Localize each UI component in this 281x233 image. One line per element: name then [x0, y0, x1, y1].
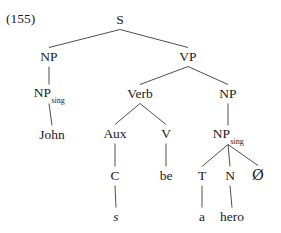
tree-terminal-hero: hero — [220, 210, 244, 224]
tree-terminal-be: be — [160, 169, 173, 183]
tree-edge-verb-to-aux — [115, 104, 140, 125]
tree-edge-vp-to-verb — [140, 67, 188, 85]
tree-edge-s-to-vp — [120, 30, 188, 48]
tree-node-null-empty-determiner: Ø — [252, 168, 264, 183]
tree-branch-lines — [0, 0, 281, 233]
tree-edge-np_sing_obj-to-n — [228, 145, 230, 167]
tree-edge-c-to-s_morpheme — [115, 186, 116, 208]
tree-terminal-john: John — [39, 128, 65, 142]
tree-edge-np_sing_obj-to-t — [202, 145, 228, 167]
tree-node-n: N — [225, 169, 235, 183]
tree-node-np-sing-subject: NPsing — [34, 86, 65, 103]
tree-terminal-s-morpheme: s — [113, 210, 118, 224]
tree-node-v: V — [161, 127, 171, 141]
tree-node-np-subject: NP — [40, 50, 57, 64]
tree-edge-vp-to-np_obj — [188, 67, 228, 85]
tree-terminal-a: a — [199, 210, 205, 224]
tree-node-c: C — [110, 169, 119, 183]
tree-node-np-object: NP — [219, 87, 236, 101]
tree-edge-verb-to-v — [140, 104, 166, 125]
example-number: (155) — [6, 11, 35, 27]
tree-edge-np_sing_obj-to-null — [228, 145, 258, 166]
syntax-tree-figure: (155) S NP VP NPsing Verb NP Aux V NPsin… — [0, 0, 281, 233]
tree-node-np-sing-object: NPsing — [213, 127, 244, 144]
tree-node-aux: Aux — [103, 127, 126, 141]
tree-node-subscript: sing — [51, 95, 64, 104]
tree-node-vp: VP — [179, 50, 196, 64]
tree-node-t: T — [198, 169, 206, 183]
tree-node-subscript: sing — [230, 136, 243, 145]
tree-edge-s-to-np_subj — [49, 30, 120, 48]
tree-node-s: S — [116, 13, 124, 27]
tree-edge-n-to-hero — [230, 186, 232, 208]
tree-node-verb: Verb — [127, 87, 153, 101]
tree-edge-np_sing_subj-to-john — [49, 104, 52, 126]
